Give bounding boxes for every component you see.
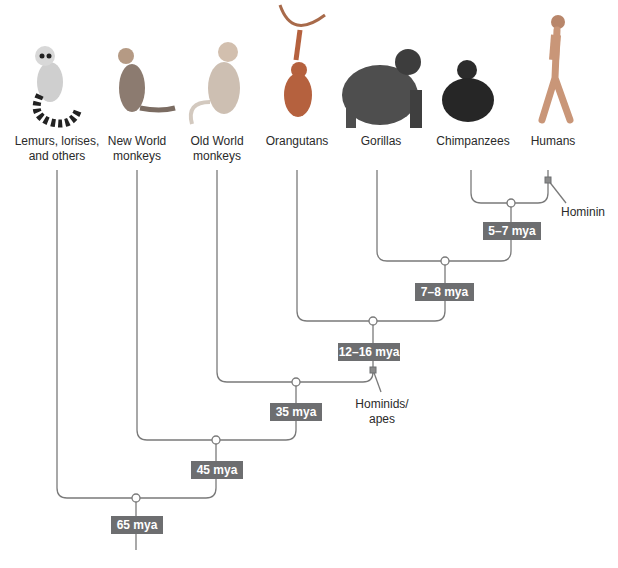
taxon-label-humans: Humans [523, 134, 583, 149]
chimpanzee-icon [442, 60, 494, 122]
human-icon [542, 15, 570, 120]
node-root [132, 494, 140, 502]
capuchin-monkey-icon [118, 48, 175, 112]
annotation-hominids-apes: Hominids/ apes [352, 397, 412, 427]
node-gorilla [441, 257, 449, 265]
node-orangutan [369, 317, 377, 325]
hominids-marker [370, 367, 376, 373]
taxon-label-old-world: Old World monkeys [177, 134, 257, 164]
taxon-label-new-world: New World monkeys [97, 134, 177, 164]
node-chimp-human [507, 199, 515, 207]
macaque-monkey-icon [191, 42, 240, 124]
phylogenetic-tree [0, 0, 618, 568]
taxon-label-lemurs: Lemurs, lorises, and others [2, 134, 112, 164]
taxon-label-gorillas: Gorillas [346, 134, 416, 149]
lemur-icon [35, 46, 78, 124]
node-new-world [212, 436, 220, 444]
divergence-label-old-world: 35 mya [270, 403, 322, 421]
taxon-label-chimpanzees: Chimpanzees [428, 134, 518, 149]
node-old-world [292, 378, 300, 386]
divergence-label-gorilla: 7–8 mya [415, 283, 474, 301]
branch-chimp-human [471, 170, 548, 203]
divergence-label-new-world: 45 mya [191, 461, 243, 479]
branch-gorilla [377, 170, 511, 261]
annotation-hominin: Hominin [553, 205, 613, 220]
divergence-label-orangutan: 12–16 mya [338, 343, 400, 361]
orangutan-icon [280, 5, 325, 117]
gorilla-icon [342, 49, 422, 128]
taxon-label-orangutans: Orangutans [257, 134, 337, 149]
divergence-label-root: 65 mya [111, 516, 163, 534]
hominin-marker [545, 177, 551, 183]
divergence-label-chimp-human: 5–7 mya [483, 222, 541, 240]
